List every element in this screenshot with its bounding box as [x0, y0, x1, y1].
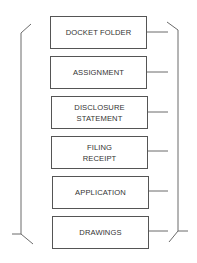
box-label: FILING RECEIPT — [83, 142, 117, 164]
box-application: APPLICATION — [52, 176, 149, 209]
left-bracket — [12, 24, 33, 244]
box-docket-folder: DOCKET FOLDER — [50, 16, 147, 49]
box-label: DOCKET FOLDER — [66, 27, 132, 38]
right-bracket — [167, 22, 188, 242]
box-label: DISCLOSURE STATEMENT — [74, 102, 124, 124]
box-label: DRAWINGS — [79, 227, 121, 238]
box-filing-receipt: FILING RECEIPT — [51, 136, 148, 169]
box-disclosure-statement: DISCLOSURE STATEMENT — [51, 96, 148, 129]
box-label: ASSIGNMENT — [73, 67, 124, 78]
box-label: APPLICATION — [75, 187, 126, 198]
box-assignment: ASSIGNMENT — [50, 56, 147, 89]
box-drawings: DRAWINGS — [52, 216, 149, 249]
